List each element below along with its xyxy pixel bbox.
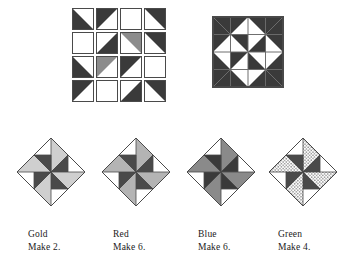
caption-red: Red Make 6. <box>113 228 197 253</box>
hst-cell <box>120 8 142 30</box>
hst-cell <box>120 32 142 54</box>
assembled-pinwheel-block <box>212 16 284 88</box>
caption-blue-make: Make 6. <box>198 241 282 254</box>
hst-cell <box>144 8 166 30</box>
caption-red-color: Red <box>113 228 197 241</box>
hst-cell <box>144 80 166 102</box>
hst-cell <box>144 56 166 78</box>
caption-gold-color: Gold <box>28 228 112 241</box>
diamond-block-red <box>97 132 175 212</box>
diamond-block-gold <box>12 132 90 212</box>
hst-cell <box>72 32 94 54</box>
hst-cell <box>72 56 94 78</box>
hst-cell <box>96 8 118 30</box>
caption-blue: Blue Make 6. <box>198 228 282 253</box>
caption-red-make: Make 6. <box>113 241 197 254</box>
hst-cell <box>120 80 142 102</box>
diamond-block-green <box>264 132 342 212</box>
hst-cell <box>72 8 94 30</box>
diamond-block-art-green <box>264 132 342 212</box>
hst-cell <box>120 56 142 78</box>
diamond-block-art-red <box>97 132 175 212</box>
hst-cell <box>96 32 118 54</box>
caption-green-make: Make 4. <box>278 241 351 254</box>
diamond-block-art-gold <box>12 132 90 212</box>
caption-gold-make: Make 2. <box>28 241 112 254</box>
caption-green-color: Green <box>278 228 351 241</box>
caption-gold: Gold Make 2. <box>28 228 112 253</box>
hst-cell <box>96 56 118 78</box>
hst-cell <box>144 32 166 54</box>
hst-cell <box>96 80 118 102</box>
diamond-block-blue <box>182 132 260 212</box>
hst-cell <box>72 80 94 102</box>
hst-unit-grid <box>72 8 166 102</box>
pinwheel-block-art <box>213 17 283 87</box>
caption-blue-color: Blue <box>198 228 282 241</box>
diamond-block-art-blue <box>182 132 260 212</box>
caption-green: Green Make 4. <box>278 228 351 253</box>
